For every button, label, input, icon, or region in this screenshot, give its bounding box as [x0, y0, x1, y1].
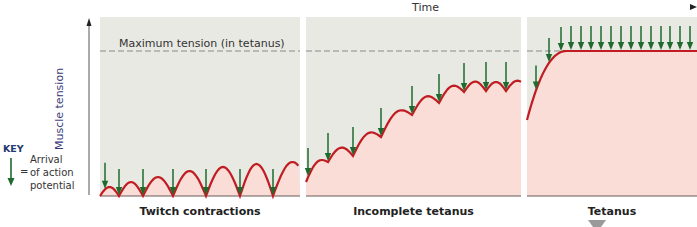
panel-title-incomplete-tetanus: Incomplete tetanus [306, 205, 521, 218]
tension-axis [87, 18, 92, 195]
key-title: KEY [3, 143, 24, 154]
time-axis [102, 4, 697, 10]
time-arrow-head-icon [690, 4, 697, 10]
panel-3 [527, 17, 697, 196]
y-axis-label: Muscle tension [53, 68, 66, 150]
tension-arrow-head-icon [87, 18, 92, 26]
key-legend: KEY = Arrival of action potential [0, 143, 80, 203]
panel-title-twitch: Twitch contractions [100, 205, 300, 218]
panel-2 [305, 17, 521, 196]
key-equals: = [20, 166, 28, 177]
time-axis-label: Time [408, 1, 443, 14]
action-potential-arrow-icon [6, 158, 16, 186]
tension-diagram [0, 0, 697, 227]
scroll-indicator-icon [588, 220, 606, 227]
panel-title-tetanus: Tetanus [527, 205, 697, 218]
key-description: Arrival of action potential [30, 153, 74, 192]
max-tension-label: Maximum tension (in tetanus) [119, 37, 285, 50]
